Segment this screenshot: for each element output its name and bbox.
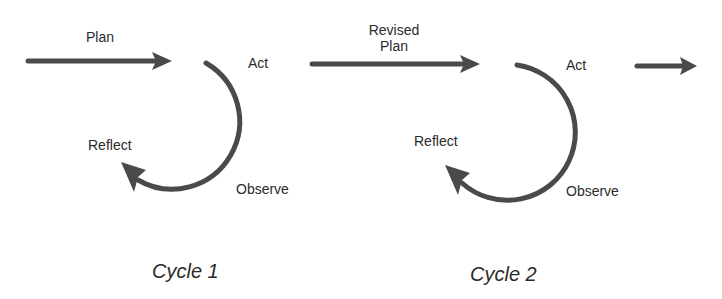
reflect-label-cycle-1: Reflect [88,137,132,153]
observe-label-cycle-2: Observe [566,183,619,199]
revised-plan-label: Revised Plan [362,22,426,54]
cycle-1-caption: Cycle 1 [152,260,219,283]
plan-arrow-cycle-1 [28,52,172,70]
plan-label: Plan [86,29,114,45]
act-label-cycle-2: Act [566,57,586,73]
revised-plan-label-line-2: Plan [362,38,426,54]
cycle-2-arc-arrow [445,65,575,200]
right-arrow-icon [637,57,697,75]
act-label-cycle-1: Act [248,55,268,71]
reflect-label-cycle-2: Reflect [414,133,458,149]
revised-plan-label-line-1: Revised [362,22,426,38]
revised-plan-arrow-cycle-2 [312,55,480,73]
cycle-1-arc-arrow [121,63,240,192]
cycle-2-caption: Cycle 2 [470,263,537,286]
observe-label-cycle-1: Observe [236,181,289,197]
